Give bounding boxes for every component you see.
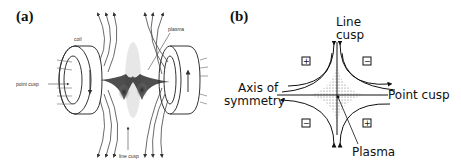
line-cusp-label-a: line cusp bbox=[119, 153, 139, 159]
line-cusp-label-cusp: cusp bbox=[336, 29, 364, 42]
panel-b-label: (b) bbox=[230, 8, 248, 25]
polarity-top-left: + bbox=[303, 55, 310, 68]
right-coil bbox=[159, 46, 200, 114]
axis-label-line2: symmetry bbox=[224, 95, 285, 108]
polarity-bottom-right: + bbox=[364, 117, 371, 130]
panel-a-coil-geometry: (a) coil plasma point cusp line cusp bbox=[0, 0, 230, 168]
panel-b-cusp-schematic: (b) Line cusp Axis of symmetry Point cus… bbox=[230, 0, 461, 168]
coil-label: coil bbox=[74, 36, 82, 42]
polarity-bottom-left: − bbox=[303, 117, 310, 130]
plasma-label-b: Plasma bbox=[352, 146, 395, 159]
panel-a-label: (a) bbox=[16, 8, 34, 25]
point-cusp-label-b: Point cusp bbox=[388, 89, 450, 102]
polarity-top-right: − bbox=[364, 55, 371, 68]
plasma-label-a: plasma bbox=[168, 26, 184, 32]
point-cusp-label-a: point cusp bbox=[16, 81, 39, 87]
